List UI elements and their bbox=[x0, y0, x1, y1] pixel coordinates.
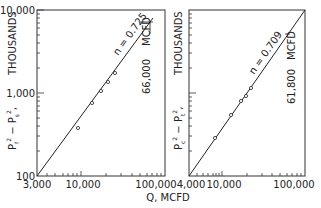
svg-text:61,800: 61,800 bbox=[286, 69, 297, 104]
svg-text:THOUSANDS: THOUSANDS bbox=[7, 11, 18, 76]
svg-text:THOUSANDS: THOUSANDS bbox=[173, 11, 184, 76]
data-point bbox=[244, 94, 247, 97]
right-aof-label: 61,800 MCFD bbox=[286, 31, 297, 104]
left-plot: 10,000 1,000 100 3,000 10,000 100,000 Pf… bbox=[0, 5, 177, 190]
data-point bbox=[106, 80, 109, 83]
data-point bbox=[213, 136, 216, 139]
svg-text:Pf2 − Ps2,: Pf2 − Ps2, bbox=[5, 107, 20, 150]
svg-text:MCFD: MCFD bbox=[141, 17, 152, 46]
right-plot: 4,000 10,000 100,000 Pc2 − Pt2, THOUSAND… bbox=[171, 10, 315, 190]
right-x-ticks bbox=[197, 171, 301, 176]
data-point bbox=[249, 86, 252, 89]
svg-text:Pc2 − Pt2,: Pc2 − Pt2, bbox=[171, 107, 186, 150]
x-axis-title: Q, MCFD bbox=[146, 192, 190, 203]
left-fit-line bbox=[37, 18, 153, 176]
left-y-axis-title: Pf2 − Ps2, THOUSANDS bbox=[5, 11, 20, 150]
data-point bbox=[113, 71, 116, 74]
svg-text:66,000: 66,000 bbox=[141, 59, 152, 94]
data-point bbox=[229, 113, 232, 116]
data-point bbox=[76, 126, 79, 129]
left-aof-label: 66,000 MCFD bbox=[141, 17, 152, 94]
left-y-tick-label: 1,000 bbox=[6, 88, 35, 99]
right-y-axis-title: Pc2 − Pt2, THOUSANDS bbox=[171, 11, 186, 150]
left-y-ticks bbox=[37, 10, 44, 151]
left-x-tick-label: 3,000 bbox=[23, 179, 52, 190]
left-data-points bbox=[76, 71, 116, 129]
left-x-tick-label: 100,000 bbox=[135, 179, 176, 190]
left-x-tick-label: 10,000 bbox=[66, 179, 101, 190]
right-x-tick-label: 10,000 bbox=[207, 179, 242, 190]
figure: 10,000 1,000 100 3,000 10,000 100,000 Pf… bbox=[0, 0, 321, 208]
data-point bbox=[99, 89, 102, 92]
right-y-ticks bbox=[189, 14, 196, 151]
right-x-tick-label: 100,000 bbox=[273, 179, 314, 190]
right-x-tick-label: 4,000 bbox=[177, 179, 206, 190]
left-x-ticks bbox=[47, 171, 161, 176]
right-n-label: n = 0.709 bbox=[247, 29, 285, 76]
data-point bbox=[239, 99, 242, 102]
svg-text:MCFD: MCFD bbox=[286, 31, 297, 60]
data-point bbox=[90, 101, 93, 104]
